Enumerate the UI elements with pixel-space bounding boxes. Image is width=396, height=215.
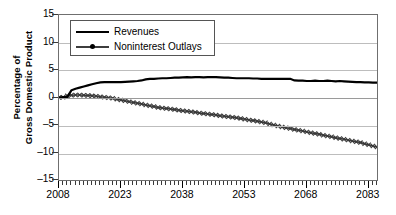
series-markers-noninterest-outlays	[59, 93, 377, 149]
gridline-minus5	[59, 126, 377, 127]
legend-label-noninterest-outlays: Noninterest Outlays	[114, 41, 202, 52]
x-tick-label: 2068	[294, 188, 317, 200]
legend-swatch-revenues	[76, 26, 109, 37]
gridline-minus10	[59, 154, 377, 155]
x-tick-label: 2053	[232, 188, 255, 200]
y-axis-tick-labels: 151050–5–10–15	[32, 0, 54, 215]
y-tick-label: 15	[32, 9, 54, 19]
legend-item-revenues: Revenues	[76, 24, 209, 39]
x-tick-label: 2038	[170, 188, 193, 200]
legend-item-noninterest-outlays: Noninterest Outlays	[76, 39, 209, 54]
chart-container: Percentage of Gross Domestic Product 151…	[0, 0, 396, 215]
y-tick-label: 0	[32, 92, 54, 102]
legend-label-revenues: Revenues	[114, 26, 159, 37]
y-tick-label: –5	[32, 119, 54, 129]
y-tick-label: –10	[32, 147, 54, 157]
x-axis-tick-marks	[58, 181, 378, 188]
x-tick-label: 2008	[46, 188, 69, 200]
y-tick-label: –15	[32, 174, 54, 184]
series-line-revenues	[59, 77, 377, 97]
x-tick-label: 2023	[108, 188, 131, 200]
y-axis-title: Percentage of Gross Domestic Product	[11, 3, 34, 173]
gridline-5	[59, 70, 377, 71]
series-line-noninterest-outlays	[59, 95, 377, 147]
y-axis-title-line-1: Percentage of	[11, 3, 23, 173]
chart-legend: Revenues Noninterest Outlays	[70, 20, 215, 56]
x-axis-tick-labels: 200820232038205320682083	[58, 188, 378, 204]
legend-swatch-noninterest-outlays	[76, 41, 109, 52]
y-tick-label: 10	[32, 37, 54, 47]
gridline-zero	[59, 98, 377, 99]
y-tick-label: 5	[32, 64, 54, 74]
x-tick-label: 2083	[356, 188, 379, 200]
